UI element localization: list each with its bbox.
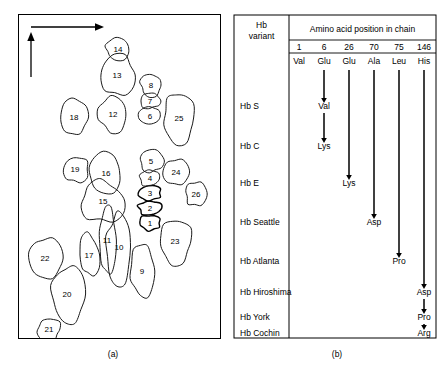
gel-spot-label-24: 24 [172, 168, 181, 177]
position-header-26: 26 [344, 42, 354, 52]
wildtype-residue-26: Glu [342, 56, 356, 66]
gel-spot-24: 24 [163, 159, 190, 185]
wildtype-residue-146: His [418, 56, 430, 66]
gel-spot-label-5: 5 [149, 157, 154, 166]
gel-spot-label-18: 18 [70, 113, 79, 122]
gel-spot-label-1: 1 [148, 219, 153, 228]
substitution-hb-c-6: Lys [318, 141, 331, 151]
gel-spot-label-12: 12 [109, 110, 118, 119]
gel-spot-19: 19 [63, 158, 87, 183]
gel-spot-label-8: 8 [149, 81, 154, 90]
gel-spot-label-3: 3 [148, 189, 153, 198]
gel-spot-25: 25 [164, 95, 195, 146]
wildtype-residue-1: Val [293, 56, 305, 66]
gel-spot-label-7: 7 [148, 97, 153, 106]
gel-spot-label-21: 21 [45, 325, 54, 334]
gel-spot-4: 4 [139, 170, 159, 186]
gel-spot-22: 22 [28, 238, 63, 279]
gel-map-svg: 1234567891011121314151617181920212223242… [19, 15, 220, 338]
substitution-hb-hiroshima-146: Asp [417, 287, 432, 297]
spot-layer: 1234567891011121314151617181920212223242… [28, 37, 207, 338]
variant-label-hb-york: Hb York [240, 312, 271, 322]
wildtype-residue-75: Leu [392, 56, 406, 66]
chain-position-lines [321, 70, 427, 330]
gel-spot-label-11: 11 [103, 236, 112, 245]
variant-label-hb-e: Hb E [240, 178, 259, 188]
gel-spot-21: 21 [37, 319, 61, 338]
substitution-table-svg: HbvariantAmino acid position in chain162… [233, 14, 437, 339]
gel-spot-26: 26 [186, 182, 207, 206]
caption-b: (b) [332, 349, 342, 359]
substitution-hb-york-146: Pro [417, 312, 431, 322]
substitution-hb-seattle-70: Asp [367, 217, 382, 227]
gel-spot-label-13: 13 [113, 71, 122, 80]
gel-spot-label-16: 16 [102, 169, 111, 178]
table-header: HbvariantAmino acid position in chain162… [249, 20, 432, 66]
gel-spot-label-22: 22 [41, 254, 50, 263]
position-header-6: 6 [322, 42, 327, 52]
gel-spot-18: 18 [61, 98, 89, 135]
variant-label-hb-c: Hb C [240, 141, 259, 151]
variant-label-hb-s: Hb S [240, 101, 259, 111]
gel-spot-label-19: 19 [71, 165, 80, 174]
substitution-hb-cochin-146: Arg [417, 328, 431, 338]
gel-spot-label-25: 25 [175, 114, 184, 123]
gel-spot-6: 6 [138, 107, 160, 125]
position-header-1: 1 [297, 42, 302, 52]
variant-label-hb-cochin: Hb Cochin [240, 328, 280, 338]
variant-label-hb-atlanta: Hb Atlanta [240, 256, 279, 266]
vertical-axis-arrow [27, 32, 34, 77]
position-header-70: 70 [369, 42, 379, 52]
gel-spot-label-20: 20 [63, 290, 72, 299]
gel-spot-label-14: 14 [114, 45, 123, 54]
gel-spot-9: 9 [130, 244, 155, 298]
gel-spot-label-15: 15 [99, 197, 108, 206]
gel-spot-14: 14 [105, 37, 129, 60]
substitution-hb-e-26: Lys [343, 178, 356, 188]
position-header-146: 146 [417, 42, 431, 52]
gel-spot-23: 23 [160, 221, 191, 266]
gel-spot-16: 16 [89, 151, 120, 194]
substitution-hb-s-6: Val [318, 101, 330, 111]
variant-label-hb-hiroshima: Hb Hiroshima [240, 287, 292, 297]
gel-spot-1: 1 [140, 216, 160, 232]
gel-spot-3: 3 [138, 185, 161, 201]
row-header-line1: Hb [256, 20, 267, 30]
gel-spot-5: 5 [140, 149, 164, 173]
gel-map-panel: 1234567891011121314151617181920212223242… [18, 14, 221, 339]
gel-spot-17: 17 [80, 232, 100, 276]
row-header-line2: variant [249, 31, 275, 41]
wildtype-residue-6: Glu [317, 56, 331, 66]
gel-spot-label-23: 23 [171, 237, 180, 246]
variant-label-column: Hb SHb CHb EHb SeattleHb AtlantaHb Hiros… [240, 101, 292, 338]
gel-spot-7: 7 [141, 93, 161, 109]
substitution-hb-atlanta-75: Pro [392, 256, 406, 266]
gel-spot-label-6: 6 [148, 112, 153, 121]
wildtype-residue-70: Ala [368, 56, 381, 66]
gel-spot-12: 12 [97, 95, 126, 133]
gel-spot-label-26: 26 [192, 190, 201, 199]
substitution-table-panel: HbvariantAmino acid position in chain162… [233, 14, 437, 339]
gel-spot-label-4: 4 [148, 174, 153, 183]
gel-spot-label-2: 2 [148, 204, 153, 213]
gel-spot-label-9: 9 [140, 267, 145, 276]
variant-label-hb-seattle: Hb Seattle [240, 217, 280, 227]
position-header-75: 75 [394, 42, 404, 52]
gel-spot-label-17: 17 [85, 251, 94, 260]
gel-spot-8: 8 [140, 74, 161, 97]
horizontal-axis-arrow [31, 23, 104, 30]
caption-a: (a) [108, 349, 118, 359]
gel-spot-2: 2 [137, 201, 162, 215]
column-group-header: Amino acid position in chain [310, 24, 416, 34]
gel-spot-13: 13 [101, 53, 136, 95]
